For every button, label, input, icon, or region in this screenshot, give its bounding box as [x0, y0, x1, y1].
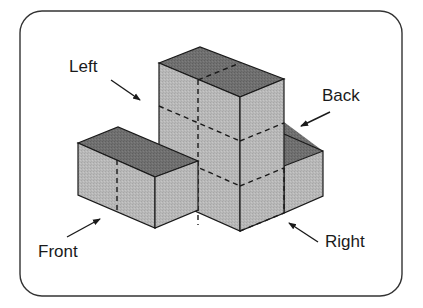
label-left: Left — [69, 57, 97, 77]
label-front: Front — [38, 242, 78, 262]
right-arrow — [289, 223, 318, 242]
back-arrow — [301, 112, 330, 126]
label-right: Right — [325, 232, 365, 252]
front-arrow — [67, 219, 100, 237]
label-back: Back — [322, 86, 360, 106]
tall-block-right-face — [240, 79, 284, 231]
left-arrow — [111, 80, 140, 100]
right-low-block — [284, 122, 323, 213]
